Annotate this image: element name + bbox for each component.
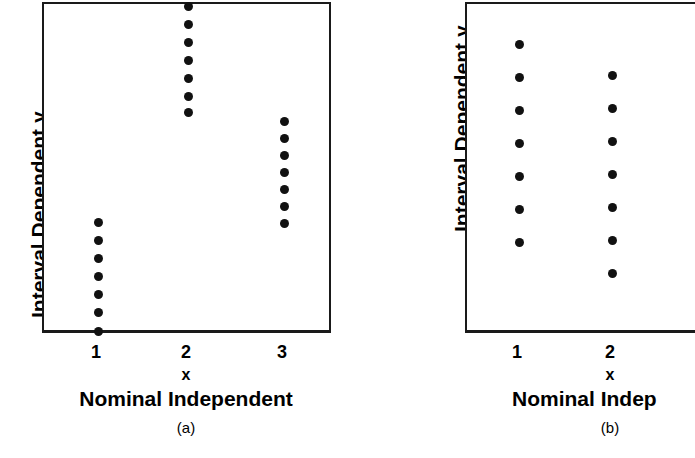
data-point xyxy=(280,202,289,211)
data-point xyxy=(94,308,103,317)
data-point xyxy=(184,74,193,83)
data-point xyxy=(515,40,524,49)
x-axis-variable-panel-b: x xyxy=(580,367,640,383)
data-point xyxy=(184,2,193,11)
data-point xyxy=(280,151,289,160)
data-point xyxy=(184,56,193,65)
data-point xyxy=(515,238,524,247)
data-point xyxy=(94,236,103,245)
data-point xyxy=(94,254,103,263)
data-point xyxy=(515,139,524,148)
panel-a: Interval Dependent y 1 2 3 xyxy=(0,0,350,458)
data-point xyxy=(94,290,103,299)
data-point xyxy=(608,104,617,113)
plot-area-panel-a xyxy=(42,2,331,333)
data-point xyxy=(280,134,289,143)
panel-caption-b: (b) xyxy=(580,420,640,435)
data-point xyxy=(608,203,617,212)
plot-area-panel-b xyxy=(465,2,695,333)
data-point xyxy=(608,170,617,179)
x-tick-label: 1 xyxy=(76,343,116,361)
data-point xyxy=(280,168,289,177)
data-point xyxy=(608,137,617,146)
data-point xyxy=(184,108,193,117)
data-point xyxy=(608,236,617,245)
data-point xyxy=(608,269,617,278)
x-tick-label: 2 xyxy=(166,343,206,361)
data-point xyxy=(515,172,524,181)
data-point xyxy=(94,272,103,281)
data-point xyxy=(184,20,193,29)
x-axis-title-panel-a: Nominal Independent xyxy=(79,388,293,409)
data-point xyxy=(515,73,524,82)
data-point xyxy=(515,106,524,115)
data-point xyxy=(184,38,193,47)
data-point xyxy=(608,71,617,80)
x-axis-variable-panel-a: x xyxy=(156,367,216,383)
x-axis-title-panel-b: Nominal Indep xyxy=(512,388,657,409)
x-tick-label: 1 xyxy=(497,343,537,361)
data-point xyxy=(280,219,289,228)
data-point xyxy=(280,185,289,194)
data-point xyxy=(184,92,193,101)
data-point xyxy=(280,117,289,126)
x-tick-label: 3 xyxy=(262,343,302,361)
data-point xyxy=(515,205,524,214)
data-point xyxy=(94,327,103,336)
data-point xyxy=(94,218,103,227)
x-tick-label: 2 xyxy=(590,343,630,361)
panel-caption-a: (a) xyxy=(156,420,216,435)
